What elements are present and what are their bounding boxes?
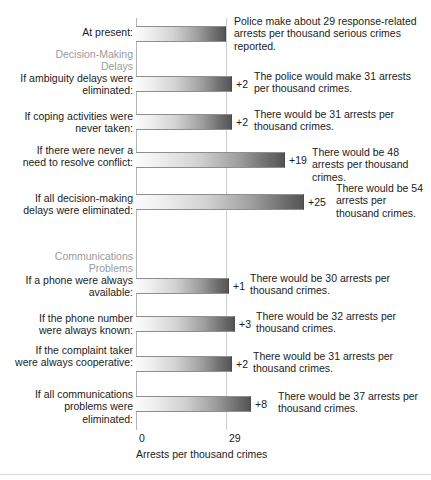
annotation-phone-number-known: There would be 32 arrests per thousand c… — [256, 310, 426, 335]
row-label-resolve-conflict: If there were never a need to resolve co… — [15, 144, 133, 169]
annotation-phone-available: There would be 30 arrests per thousand c… — [250, 272, 426, 297]
x-axis-title: Arrests per thousand crimes — [136, 448, 267, 460]
bar-complaint-taker — [136, 356, 232, 372]
annotation-all-decision-delays: There would be 54 arrests per thousand c… — [336, 182, 426, 219]
annotation-all-communications: There would be 37 arrests per thousand c… — [278, 390, 426, 415]
row-label-complaint-taker: If the complaint taker were always coope… — [15, 344, 133, 369]
annotation-coping-activities: There would be 31 arrests per thousand c… — [254, 108, 424, 133]
delta-badge-complaint-taker: +2 — [236, 356, 248, 372]
section-header-decision-making-line1: Decision-Making — [5, 48, 133, 60]
delta-badge-resolve-conflict: +19 — [289, 152, 307, 168]
footer-divider — [0, 474, 431, 475]
section-header-communications-line1: Communications — [5, 250, 133, 262]
bar-all-decision-delays — [136, 194, 304, 210]
row-label-phone-number-known: If the phone number were always known: — [15, 312, 133, 337]
row-label-coping-activities: If coping activities were never taken: — [15, 110, 133, 135]
bar-phone-available — [136, 278, 229, 294]
row-label-at-present: At present: — [15, 26, 133, 38]
annotation-resolve-conflict: There would be 48 arrests per thousand c… — [312, 146, 424, 183]
bar-all-communications — [136, 396, 251, 412]
bar-phone-number-known — [136, 316, 235, 332]
annotation-at-present: Police make about 29 response-related ar… — [234, 15, 424, 52]
bar-ambiguity-delays — [136, 76, 232, 92]
delta-badge-phone-number-known: +3 — [239, 316, 251, 332]
row-label-all-communications: If all communications problems were elim… — [15, 388, 133, 425]
bar-at-present — [136, 26, 226, 42]
delta-badge-coping-activities: +2 — [236, 114, 248, 130]
row-label-all-decision-delays: If all decision-making delays were elimi… — [15, 192, 133, 217]
delta-badge-ambiguity-delays: +2 — [236, 76, 248, 92]
x-axis-tick-0: 0 — [139, 432, 145, 444]
delta-badge-phone-available: +1 — [233, 278, 245, 294]
section-header-decision-making-line2: Delays — [5, 60, 133, 72]
annotation-complaint-taker: There would be 31 arrests per thousand c… — [253, 350, 425, 375]
delta-badge-all-decision-delays: +25 — [308, 194, 326, 210]
bar-coping-activities — [136, 114, 232, 130]
section-header-communications-line2: Problems — [5, 262, 133, 274]
delta-badge-all-communications: +8 — [255, 396, 267, 412]
x-axis-tick-29: 29 — [229, 432, 241, 444]
bar-resolve-conflict — [136, 152, 285, 168]
row-label-phone-available: If a phone were always available: — [15, 274, 133, 299]
annotation-ambiguity-delays: The police would make 31 arrests per tho… — [254, 70, 424, 95]
row-label-ambiguity-delays: If ambiguity delays were eliminated: — [15, 72, 133, 97]
arrests-bar-chart: At present: Police make about 29 respons… — [0, 0, 431, 480]
